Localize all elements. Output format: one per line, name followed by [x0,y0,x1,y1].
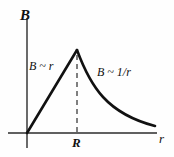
magnetic-field-vs-radius-figure: B r R B ~ r B ~ 1/r [0,0,174,157]
x-tick-label-R: R [72,136,81,149]
plot-canvas [0,0,174,157]
x-axis-label: r [159,132,164,145]
y-axis-label: B [20,8,30,23]
annotation-inner-region: B ~ r [29,60,54,72]
annotation-outer-region: B ~ 1/r [97,66,131,78]
curve-outer-inverse [77,50,155,126]
